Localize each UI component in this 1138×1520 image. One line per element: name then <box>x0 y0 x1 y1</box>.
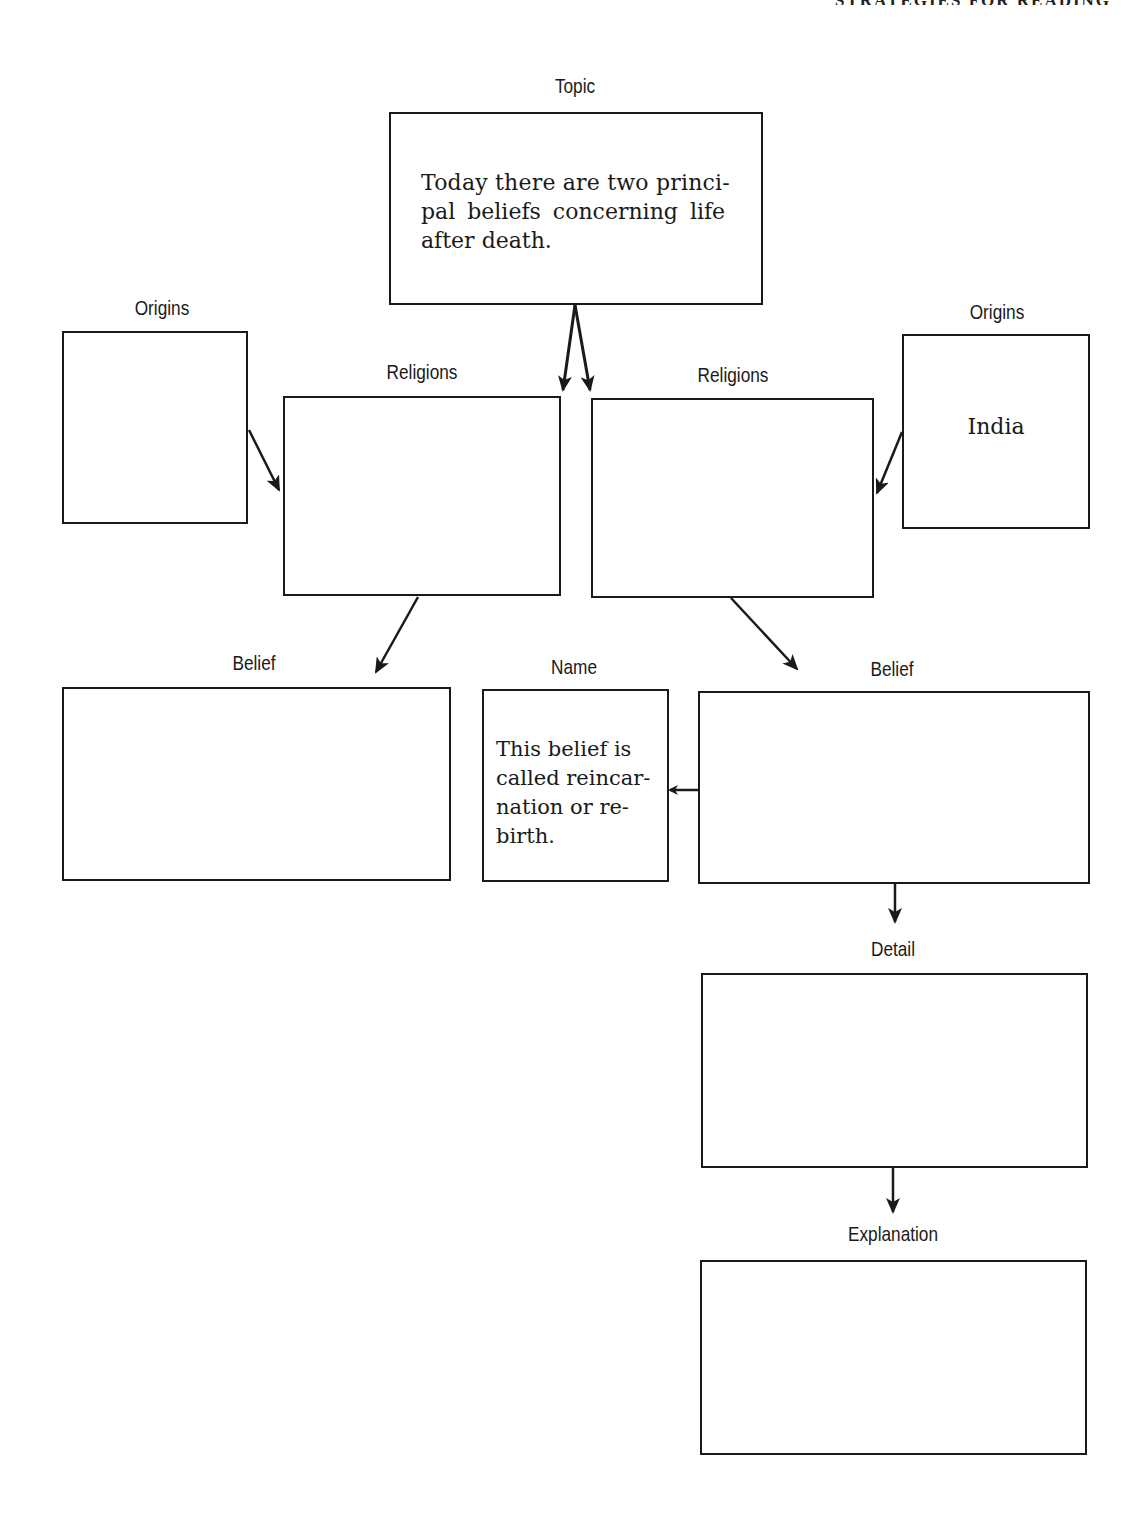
left-religions-label: Religions <box>373 360 471 384</box>
arrow-left-origins-to-religions <box>249 430 279 490</box>
topic-label: Topic <box>534 74 616 98</box>
arrow-left-religions-to-belief <box>376 597 418 672</box>
arrow-right-origins-to-religions <box>877 432 902 493</box>
right-religions-box <box>591 398 874 598</box>
right-belief-box <box>698 691 1090 884</box>
name-text-line: birth. <box>496 822 650 851</box>
topic-text: Today there are two princi- pal beliefs … <box>421 168 730 255</box>
arrow-topic-to-left-religions <box>563 305 575 390</box>
topic-text-line: Today there are two princi- <box>421 168 730 197</box>
right-origins-label: Origins <box>956 300 1038 324</box>
left-origins-box <box>62 331 248 524</box>
name-label: Name <box>533 655 615 679</box>
name-text-line: called reincar- <box>496 764 650 793</box>
graphic-organizer-page: STRATEGIES FOR READING Topic Today there… <box>0 0 1138 1520</box>
name-text-line: This belief is <box>496 735 650 764</box>
running-head: STRATEGIES FOR READING <box>835 0 1135 5</box>
name-box: This belief is called reincar- nation or… <box>482 689 669 882</box>
topic-text-line: after death. <box>421 226 730 255</box>
right-origins-text: India <box>904 414 1088 439</box>
right-origins-box: India <box>902 334 1090 529</box>
left-origins-label: Origins <box>121 296 203 320</box>
left-belief-label: Belief <box>213 651 295 675</box>
right-belief-label: Belief <box>851 657 933 681</box>
detail-label: Detail <box>852 937 934 961</box>
explanation-label: Explanation <box>836 1222 951 1246</box>
arrow-topic-to-right-religions <box>575 305 590 390</box>
topic-text-line: pal beliefs concerning life <box>421 197 730 226</box>
explanation-box <box>700 1260 1087 1455</box>
topic-box: Today there are two princi- pal beliefs … <box>389 112 763 305</box>
name-text: This belief is called reincar- nation or… <box>496 735 650 851</box>
left-religions-box <box>283 396 561 596</box>
detail-box <box>701 973 1088 1168</box>
name-text-line: nation or re- <box>496 793 650 822</box>
left-belief-box <box>62 687 451 881</box>
arrow-right-religions-to-belief <box>731 598 797 669</box>
right-religions-label: Religions <box>684 363 782 387</box>
